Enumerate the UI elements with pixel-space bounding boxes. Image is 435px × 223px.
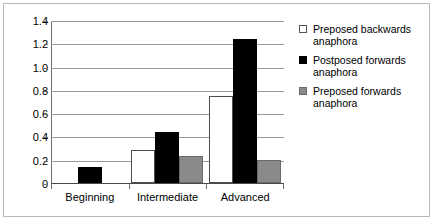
y-axis-tick-mark <box>44 44 48 45</box>
x-axis-category-label: Advanced <box>206 191 284 203</box>
y-axis-tick-mark <box>44 184 48 185</box>
bar <box>233 39 257 183</box>
y-axis-tick-mark <box>44 91 48 92</box>
legend-label-line2: anaphora <box>313 98 424 110</box>
y-axis-tick-mark <box>44 68 48 69</box>
chart-figure: 00.20.40.60.81.01.21.4 BeginningIntermed… <box>3 3 430 217</box>
legend-swatch-icon <box>299 25 307 33</box>
x-axis-tick-mark <box>283 184 284 189</box>
x-axis-category-label: Beginning <box>51 191 129 203</box>
bar <box>155 132 179 183</box>
legend-label-line2: anaphora <box>313 36 424 48</box>
legend-swatch-icon <box>299 56 307 64</box>
bar <box>131 150 155 183</box>
bar <box>78 167 102 183</box>
x-axis-category-label: Intermediate <box>129 191 207 203</box>
x-axis: BeginningIntermediateAdvanced <box>51 184 284 210</box>
legend-swatch-icon <box>299 87 307 95</box>
x-axis-tick-mark <box>206 184 207 189</box>
legend-label-line1: Postposed forwards <box>313 55 424 67</box>
y-axis-tick-mark <box>44 161 48 162</box>
bar-group <box>129 21 207 183</box>
bar-group <box>206 21 284 183</box>
y-axis-tick-mark <box>44 21 48 22</box>
y-axis-tick-mark <box>44 137 48 138</box>
legend-item: Preposed backwardsanaphora <box>299 24 424 47</box>
legend-label-line1: Preposed forwards <box>313 86 424 98</box>
chart-legend: Preposed backwardsanaphoraPostposed forw… <box>299 24 424 117</box>
bar <box>257 160 281 183</box>
bar <box>179 156 203 183</box>
legend-item: Postposed forwardsanaphora <box>299 55 424 78</box>
bar <box>209 96 233 183</box>
x-axis-tick-mark <box>51 184 52 189</box>
legend-label-line1: Preposed backwards <box>313 24 424 36</box>
bar-group <box>51 21 129 183</box>
legend-label-line2: anaphora <box>313 67 424 79</box>
y-axis: 00.20.40.60.81.01.21.4 <box>4 21 48 184</box>
legend-item: Preposed forwardsanaphora <box>299 86 424 109</box>
y-axis-tick-mark <box>44 114 48 115</box>
plot-area <box>51 21 284 184</box>
x-axis-tick-mark <box>129 184 130 189</box>
